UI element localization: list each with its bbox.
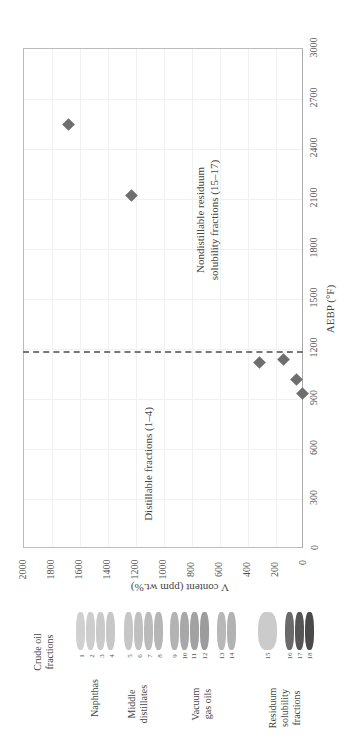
y-tick-label: 200 [269, 562, 280, 577]
fraction-number: 12 [201, 653, 209, 660]
legend-group-label: Middle distillates [126, 669, 150, 736]
fraction-disk [258, 612, 277, 650]
y-tick-label: 1000 [157, 560, 168, 580]
x-tick-label: 300 [308, 490, 319, 505]
fraction-number: 3 [98, 654, 106, 658]
fraction-number: 14 [228, 653, 236, 660]
x-tick-label: 3000 [308, 38, 319, 58]
fraction-number: 7 [146, 654, 154, 658]
gridline [80, 49, 81, 547]
y-axis-title-text: V content (ppm wt.%) [131, 582, 229, 594]
legend-group-label-line: Vacuum [190, 688, 201, 721]
x-tick-label: 2700 [308, 88, 319, 108]
fraction-number: 15 [264, 653, 272, 660]
legend-group-label: Naphthas [89, 668, 101, 728]
fraction-disk [227, 612, 236, 650]
y-tick-label: 2000 [17, 560, 28, 580]
legend-group-label-line: Residuum [267, 688, 278, 729]
fraction-number: 2 [88, 654, 96, 658]
fraction-number: 16 [286, 653, 294, 660]
x-tick-label: 2100 [308, 188, 319, 208]
fraction-number: 17 [296, 653, 304, 660]
legend-header-line: Crude oil [32, 633, 43, 671]
x-tick-label: 1200 [308, 338, 319, 358]
fraction-disk [124, 612, 133, 650]
y-tick-label: 1600 [73, 560, 84, 580]
legend-group-naphthas [76, 612, 115, 650]
fraction-disk [285, 612, 294, 650]
distillation-cutoff-line [23, 351, 303, 353]
gridline [164, 49, 165, 547]
legend-group-residuum-16-18 [285, 612, 314, 650]
fraction-number: 5 [126, 654, 134, 658]
y-tick-label: 1800 [45, 560, 56, 580]
y-tick-label: 0 [297, 560, 308, 565]
gridline [108, 49, 109, 547]
fraction-disk [134, 612, 143, 650]
fraction-disk [295, 612, 304, 650]
y-tick-label: 1200 [129, 560, 140, 580]
fraction-number: 11 [190, 653, 198, 660]
x-tick-label: 900 [308, 390, 319, 405]
x-tick-label: 600 [308, 440, 319, 455]
fraction-number: 8 [156, 654, 164, 658]
legend-header-line: fractions [44, 635, 55, 670]
gridline [24, 499, 302, 500]
fraction-disk [200, 612, 209, 650]
x-tick-label: 2400 [308, 138, 319, 158]
fraction-number: 10 [181, 653, 189, 660]
gridline [24, 449, 302, 450]
legend-group-label-line: fractions [291, 691, 302, 726]
fraction-disk [144, 612, 153, 650]
y-tick-label: 400 [241, 562, 252, 577]
x-tick-label: 1800 [308, 238, 319, 258]
fraction-disk [170, 612, 179, 650]
annotation-distillable: Distillable fractions (1–4) [141, 394, 155, 534]
x-axis-title: AEBP (°F) [324, 269, 336, 349]
fraction-disk [190, 612, 199, 650]
gridline [24, 399, 302, 400]
fraction-number: 1 [78, 654, 86, 658]
legend-group-residuum-15 [258, 612, 277, 650]
fraction-disk [217, 612, 226, 650]
gridline [52, 49, 53, 547]
fraction-disk [305, 612, 314, 650]
y-tick-label: 800 [185, 562, 196, 577]
fraction-number: 18 [306, 653, 314, 660]
legend-group-vacuum-gas-oils [170, 612, 209, 650]
fraction-number: 4 [108, 654, 116, 658]
gridline [24, 299, 302, 300]
fraction-number: 9 [171, 654, 179, 658]
legend-group-label: Vacuum gas oils [190, 674, 214, 734]
gridline [136, 49, 137, 547]
annotation-nondistillable: Nondistillable residuum solubility fract… [193, 140, 221, 300]
legend-group-label-line: gas oils [202, 689, 213, 719]
legend-group-middle-distillates [124, 612, 163, 650]
legend-group-label-line: distillates [138, 685, 149, 723]
fraction-disk [96, 612, 105, 650]
y-tick-label: 600 [213, 562, 224, 577]
legend-group-label: Residuum solubility fractions [267, 673, 303, 736]
fraction-disk [76, 612, 85, 650]
fraction-disk [106, 612, 115, 650]
legend-header: Crude oil fractions [32, 622, 56, 682]
x-tick-label: 1500 [308, 288, 319, 308]
gridline [24, 249, 302, 250]
x-tick-label: 0 [309, 545, 320, 550]
annotation-line: Nondistillable residuum [194, 167, 206, 273]
annotation-line: solubility fractions (15–17) [208, 160, 220, 280]
fraction-number: 13 [218, 653, 226, 660]
y-tick-label: 1400 [101, 560, 112, 580]
legend-group-label-line: solubility [279, 689, 290, 727]
fraction-disk [180, 612, 189, 650]
fraction-number: 6 [136, 654, 144, 658]
gridline [24, 349, 302, 350]
gridline [24, 199, 302, 200]
gridline [248, 49, 249, 547]
legend-group-label-line: Middle [126, 690, 137, 719]
gridline [276, 49, 277, 547]
gridline [24, 149, 302, 150]
fraction-disk [154, 612, 163, 650]
legend-group-heavy-vgo [217, 612, 236, 650]
gridline [24, 99, 302, 100]
